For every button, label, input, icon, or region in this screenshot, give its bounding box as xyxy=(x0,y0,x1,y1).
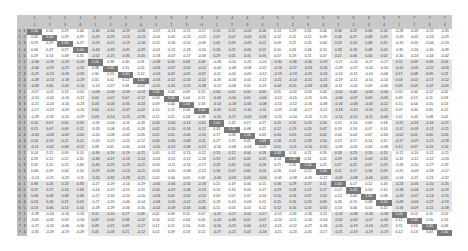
column-header: 4 xyxy=(73,22,88,29)
column-header: 6 xyxy=(361,15,376,22)
value-cell: -0.35 xyxy=(27,230,42,236)
column-header: 4 xyxy=(255,22,270,29)
column-header: 4 xyxy=(376,22,391,29)
value-cell: -0.12 xyxy=(133,230,148,236)
column-header: 1 xyxy=(270,22,285,29)
column-header: 1 xyxy=(42,15,57,22)
header-row: 1111222233334444555566667777 xyxy=(17,15,452,22)
value-cell: 0.02 xyxy=(149,230,164,236)
column-header: 4 xyxy=(194,22,209,29)
column-header: 7 xyxy=(437,15,452,22)
column-header: 2 xyxy=(285,22,300,29)
column-header: 7 xyxy=(422,15,437,22)
column-header: 1 xyxy=(27,22,42,29)
value-cell: -0.31 xyxy=(300,230,315,236)
column-header: 1 xyxy=(209,22,224,29)
value-cell: -0.18 xyxy=(255,230,270,236)
column-header: 3 xyxy=(179,22,194,29)
value-cell: 0.03 xyxy=(422,230,437,236)
column-header: 1 xyxy=(331,22,346,29)
column-header: 2 xyxy=(103,15,118,22)
column-header: 5 xyxy=(285,15,300,22)
column-header: 2 xyxy=(224,22,239,29)
column-header: 2 xyxy=(407,22,422,29)
value-cell: 0.09 xyxy=(164,230,179,236)
column-header: 7 xyxy=(392,15,407,22)
column-header: 1 xyxy=(392,22,407,29)
column-header: 4 xyxy=(133,22,148,29)
column-header: 3 xyxy=(361,22,376,29)
column-header: 2 xyxy=(133,15,148,22)
column-header: 3 xyxy=(240,22,255,29)
matrix-body: 111.000.320.290.44-0.34-0.34-0.29-0.28-0… xyxy=(17,29,452,236)
table-row: 74-0.35-0.29-0.19-0.390.05-0.030.21-0.12… xyxy=(17,230,452,236)
value-cell: -0.19 xyxy=(57,230,72,236)
column-header: 6 xyxy=(331,15,346,22)
column-header: 6 xyxy=(376,15,391,22)
value-cell: 0.12 xyxy=(392,230,407,236)
column-header: 4 xyxy=(316,22,331,29)
header-row: 1234123412341234123412341234 xyxy=(17,22,452,29)
value-cell: 0.12 xyxy=(194,230,209,236)
column-header: 3 xyxy=(149,15,164,22)
column-header: 3 xyxy=(57,22,72,29)
matrix-header: 1111222233334444555566667777123412341234… xyxy=(17,15,452,29)
column-header: 2 xyxy=(346,22,361,29)
column-header: 4 xyxy=(255,15,270,22)
column-header: 7 xyxy=(407,15,422,22)
value-cell: 0.05 xyxy=(88,230,103,236)
column-header: 4 xyxy=(240,15,255,22)
column-header: 2 xyxy=(164,22,179,29)
diagonal-cell: 1.00 xyxy=(437,230,452,236)
column-header: 4 xyxy=(224,15,239,22)
column-header: 1 xyxy=(73,15,88,22)
column-header: 5 xyxy=(316,15,331,22)
column-header: 2 xyxy=(118,15,133,22)
value-cell: 0.13 xyxy=(407,230,422,236)
value-cell: -0.03 xyxy=(103,230,118,236)
value-cell: -0.19 xyxy=(346,230,361,236)
column-header: 2 xyxy=(88,15,103,22)
column-header: 3 xyxy=(164,15,179,22)
column-header: 2 xyxy=(103,22,118,29)
value-cell: -0.19 xyxy=(361,230,376,236)
value-cell: 0.03 xyxy=(240,230,255,236)
value-cell: -0.21 xyxy=(224,230,239,236)
column-header: 1 xyxy=(149,22,164,29)
value-cell: 0.21 xyxy=(118,230,133,236)
column-header: 3 xyxy=(194,15,209,22)
value-cell: 0.13 xyxy=(179,230,194,236)
value-cell: -0.24 xyxy=(285,230,300,236)
correlation-matrix: 1111222233334444555566667777123412341234… xyxy=(17,15,452,236)
value-cell: -0.19 xyxy=(376,230,391,236)
column-header: 1 xyxy=(27,15,42,22)
value-cell: -0.27 xyxy=(209,230,224,236)
value-cell: -0.39 xyxy=(73,230,88,236)
column-header: 4 xyxy=(209,15,224,22)
column-header: 6 xyxy=(346,15,361,22)
column-header: 3 xyxy=(118,22,133,29)
value-cell: -0.29 xyxy=(42,230,57,236)
column-header: 5 xyxy=(270,15,285,22)
column-header: 5 xyxy=(300,15,315,22)
column-header: 1 xyxy=(88,22,103,29)
column-header: 1 xyxy=(57,15,72,22)
value-cell: -0.25 xyxy=(331,230,346,236)
column-header: 2 xyxy=(42,22,57,29)
value-cell: -0.21 xyxy=(270,230,285,236)
column-header: 3 xyxy=(179,15,194,22)
column-header: 3 xyxy=(300,22,315,29)
column-header: 4 xyxy=(437,22,452,29)
column-header: 3 xyxy=(422,22,437,29)
value-cell: -0.17 xyxy=(316,230,331,236)
